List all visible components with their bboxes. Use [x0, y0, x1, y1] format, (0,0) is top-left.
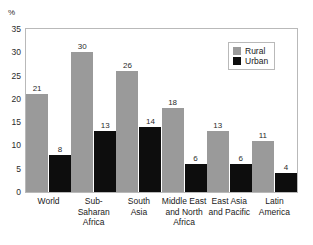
y-axis-tick-10: 10 — [12, 141, 21, 150]
bar-urban: 6 — [230, 164, 252, 192]
x-axis-label: SouthAsia — [116, 196, 161, 217]
legend-item-rural[interactable]: Rural — [233, 46, 268, 56]
bar-value-label: 21 — [33, 84, 42, 93]
bar-value-label: 13 — [101, 121, 110, 130]
y-axis-tick-30: 30 — [12, 48, 21, 57]
bar-urban: 14 — [139, 127, 161, 192]
bar-rural: 30 — [71, 52, 93, 192]
x-axis-label: Middle Eastand NorthAfrica — [162, 196, 207, 228]
bar-rural: 11 — [252, 141, 274, 192]
bar-value-label: 18 — [168, 98, 177, 107]
bar-value-label: 6 — [193, 154, 197, 163]
legend-label: Urban — [245, 56, 268, 66]
y-axis-tick-0: 0 — [16, 188, 21, 197]
bar-group: 186 — [162, 29, 207, 192]
bar-value-label: 8 — [58, 145, 62, 154]
bar-value-label: 4 — [284, 163, 288, 172]
bar-value-label: 11 — [259, 131, 267, 140]
bar-urban: 13 — [94, 131, 116, 192]
legend-swatch-icon — [233, 47, 241, 55]
x-axis-category-labels: WorldSub-SaharanAfricaSouthAsiaMiddle Ea… — [26, 196, 297, 241]
bar-urban: 6 — [185, 164, 207, 192]
bar-group: 2614 — [116, 29, 161, 192]
legend-swatch-icon — [233, 57, 241, 65]
bar-rural: 21 — [26, 94, 48, 192]
y-axis-tick-35: 35 — [12, 25, 21, 34]
bar-urban: 4 — [275, 173, 297, 192]
bar-value-label: 6 — [239, 154, 243, 163]
bar-rural: 18 — [162, 108, 184, 192]
x-axis-label: Sub-SaharanAfrica — [71, 196, 116, 228]
x-axis-label: LatinAmerica — [252, 196, 297, 217]
bar-rural: 13 — [207, 131, 229, 192]
y-axis-tick-labels: 35302520151050 — [0, 28, 21, 193]
bar-chart: % 35302520151050 21830132614186136114 Ru… — [0, 0, 313, 245]
bar-value-label: 13 — [213, 121, 222, 130]
y-axis-tick-15: 15 — [12, 118, 21, 127]
bar-rural: 26 — [116, 71, 138, 192]
legend-label: Rural — [245, 46, 265, 56]
bar-urban: 8 — [49, 155, 71, 192]
bar-value-label: 26 — [123, 61, 132, 70]
y-axis-unit-label: % — [8, 8, 15, 17]
y-axis-tick-20: 20 — [12, 94, 21, 103]
bar-group: 3013 — [71, 29, 116, 192]
y-axis-tick-25: 25 — [12, 71, 21, 80]
bar-value-label: 14 — [146, 117, 155, 126]
legend-item-urban[interactable]: Urban — [233, 56, 268, 66]
bar-group: 218 — [26, 29, 71, 192]
y-axis-tick-5: 5 — [16, 164, 21, 173]
bar-value-label: 30 — [78, 42, 87, 51]
x-axis-label: World — [26, 196, 71, 207]
x-axis-label: East Asiaand Pacific — [207, 196, 252, 217]
chart-legend: RuralUrban — [228, 42, 275, 70]
